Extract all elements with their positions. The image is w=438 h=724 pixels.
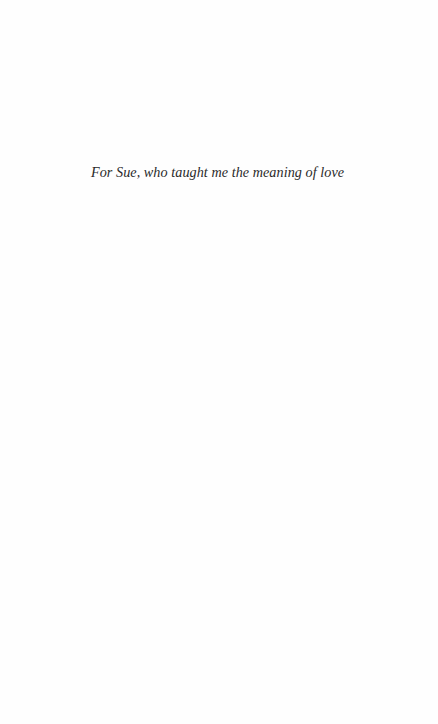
dedication-text: For Sue, who taught me the meaning of lo… — [91, 163, 351, 181]
book-page: For Sue, who taught me the meaning of lo… — [0, 0, 438, 724]
